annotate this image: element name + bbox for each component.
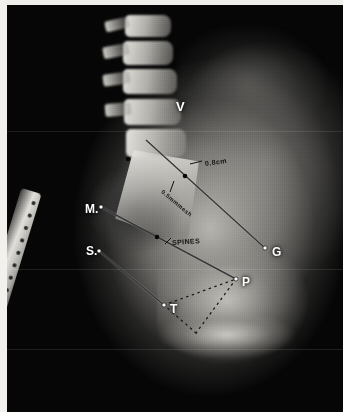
scan-seam [7, 349, 343, 350]
ruler-tick [8, 275, 13, 280]
scan-seam [7, 131, 343, 132]
point-label-g: G [272, 246, 281, 258]
calibration-ruler [7, 188, 42, 368]
ruler-tick [27, 213, 32, 218]
ruler-tick [31, 201, 36, 206]
point-label-t: T [170, 303, 177, 315]
vertebra-body [123, 69, 177, 94]
film-border-left [0, 0, 7, 412]
ruler-tick [7, 288, 9, 293]
femoral-bone-band [157, 305, 307, 367]
point-label-s: S. [86, 245, 97, 257]
vertebra-body [125, 15, 171, 37]
point-label-m: M. [85, 203, 98, 215]
vertebra-body [126, 129, 186, 157]
radiograph-image: VM.S.GPT 0.8cm0.5mmmeshSPINES [0, 0, 343, 412]
vertebra-body [123, 41, 173, 65]
ruler-tick [16, 250, 21, 255]
ruler-tick [23, 225, 28, 230]
point-label-v: V [176, 100, 185, 113]
spinous-process [104, 102, 131, 117]
vertebra-body [124, 99, 181, 125]
ruler-tick [20, 238, 25, 243]
radiographic-field [7, 5, 343, 412]
scan-seam [7, 269, 343, 270]
lumbar-spine-column [103, 13, 199, 173]
ruler-tick [12, 263, 17, 268]
point-label-p: P [242, 276, 250, 288]
